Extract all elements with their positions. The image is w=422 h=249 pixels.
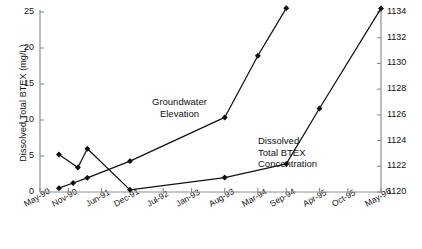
chart-container: Dissolved Total BTEX (mg/L) Groundwater … [0, 0, 422, 249]
series-marker [223, 115, 227, 119]
series-marker [85, 176, 89, 180]
series-marker [57, 186, 61, 190]
series-marker [128, 159, 132, 163]
series-marker [71, 181, 75, 185]
series-marker [223, 175, 227, 179]
plot-area [0, 0, 422, 249]
annotation-groundwater-elevation: Groundwater Elevation [152, 96, 207, 119]
series-line [59, 8, 381, 189]
annotation-dissolved-total-btex: Dissolved Total BTEX Concentration [258, 135, 317, 170]
